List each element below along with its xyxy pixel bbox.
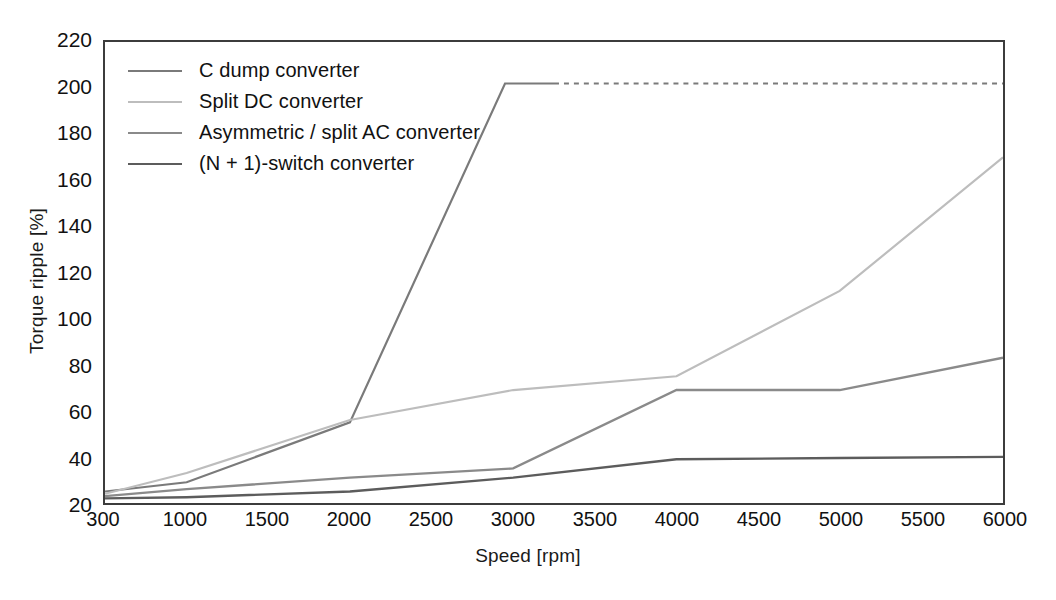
x-tick-300: 300 [86, 508, 119, 531]
series-line [105, 358, 1003, 496]
legend-line-swatch-icon [128, 70, 182, 72]
legend-item-1[interactable]: Split DC converter [128, 86, 528, 117]
legend-item-label: Asymmetric / split AC converter [199, 121, 480, 144]
x-tick-5500: 5500 [901, 508, 946, 531]
y-tick-220: 220 [26, 28, 92, 52]
y-tick-80: 80 [26, 354, 92, 378]
legend-line-swatch-icon [128, 101, 182, 103]
legend: C dump converterSplit DC converterAsymme… [128, 55, 528, 179]
y-tick-140: 140 [26, 214, 92, 238]
y-tick-100: 100 [26, 307, 92, 331]
x-tick-3500: 3500 [573, 508, 618, 531]
y-tick-200: 200 [26, 75, 92, 99]
legend-line-swatch-icon [128, 132, 182, 134]
legend-item-label: (N + 1)-switch converter [199, 152, 414, 175]
y-tick-160: 160 [26, 168, 92, 192]
legend-item-3[interactable]: (N + 1)-switch converter [128, 148, 528, 179]
series-line [105, 157, 1003, 494]
legend-line-swatch-icon [128, 163, 182, 165]
x-tick-5000: 5000 [819, 508, 864, 531]
x-tick-6000: 6000 [983, 508, 1028, 531]
chart-container: Torque ripple [%] 2202001801601401201008… [0, 0, 1056, 600]
legend-item-2[interactable]: Asymmetric / split AC converter [128, 117, 528, 148]
y-tick-120: 120 [26, 261, 92, 285]
x-tick-4500: 4500 [737, 508, 782, 531]
legend-item-0[interactable]: C dump converter [128, 55, 528, 86]
x-axis-title: Speed [rpm] [0, 545, 1056, 567]
y-tick-20: 20 [26, 493, 92, 517]
x-tick-1500: 1500 [245, 508, 290, 531]
x-tick-3000: 3000 [491, 508, 536, 531]
x-tick-2000: 2000 [327, 508, 372, 531]
x-tick-4000: 4000 [655, 508, 700, 531]
y-tick-180: 180 [26, 121, 92, 145]
y-tick-60: 60 [26, 400, 92, 424]
legend-item-label: C dump converter [199, 59, 360, 82]
legend-item-label: Split DC converter [199, 90, 363, 113]
x-tick-2500: 2500 [409, 508, 454, 531]
y-tick-40: 40 [26, 447, 92, 471]
x-tick-1000: 1000 [163, 508, 208, 531]
